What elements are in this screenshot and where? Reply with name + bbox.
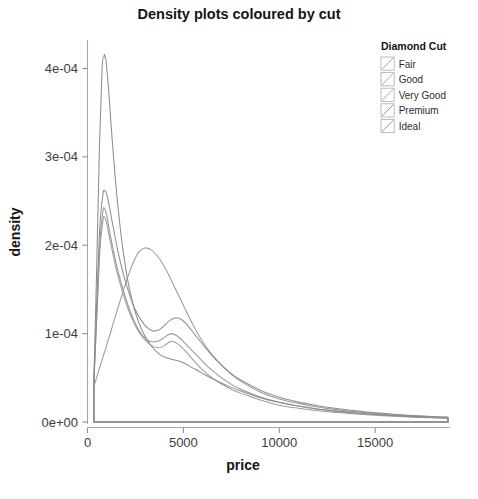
y-tick-label: 2e-04 xyxy=(45,238,78,253)
density-curve xyxy=(94,248,448,422)
x-tick-label: 0 xyxy=(84,435,91,450)
chart-title: Density plots coloured by cut xyxy=(137,6,340,22)
legend-item: Good xyxy=(381,73,423,86)
y-tick-label: 4e-04 xyxy=(45,61,78,76)
legend-item-label: Very Good xyxy=(399,90,446,101)
x-tick-group: 050001000015000 xyxy=(84,428,393,451)
legend-item-label: Fair xyxy=(399,59,417,70)
density-curve xyxy=(94,190,448,422)
legend-item: Ideal xyxy=(381,119,420,132)
legend-item: Fair xyxy=(381,57,417,70)
chart-canvas: Density plots coloured by cut 0e+001e-04… xyxy=(0,0,478,499)
x-tick-label: 10000 xyxy=(261,435,297,450)
y-tick-label: 3e-04 xyxy=(45,149,78,164)
legend-item-label: Good xyxy=(399,74,423,85)
legend: Diamond Cut FairGoodVery GoodPremiumIdea… xyxy=(381,40,447,133)
y-tick-label: 1e-04 xyxy=(45,326,78,341)
y-axis-title: density xyxy=(7,207,23,256)
legend-item: Very Good xyxy=(381,88,446,101)
legend-items: FairGoodVery GoodPremiumIdeal xyxy=(381,57,446,133)
x-axis-title: price xyxy=(226,457,260,473)
density-curve xyxy=(94,208,448,422)
legend-item: Premium xyxy=(381,104,439,117)
legend-item-label: Ideal xyxy=(399,121,421,132)
x-tick-label: 15000 xyxy=(357,435,393,450)
y-tick-group: 0e+001e-042e-043e-044e-04 xyxy=(41,61,87,429)
x-tick-label: 5000 xyxy=(169,435,198,450)
density-plot-figure: Density plots coloured by cut 0e+001e-04… xyxy=(0,0,478,499)
legend-title: Diamond Cut xyxy=(381,40,447,52)
y-tick-label: 0e+00 xyxy=(41,415,78,430)
legend-item-label: Premium xyxy=(399,105,439,116)
density-curve xyxy=(94,54,448,422)
density-curve-group xyxy=(94,54,448,422)
